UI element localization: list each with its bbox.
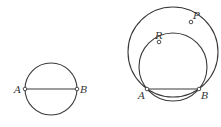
point-b <box>75 87 79 91</box>
label-r: R <box>154 30 163 41</box>
label-b: B <box>79 84 87 95</box>
inner-circle-abr <box>139 33 207 101</box>
label-b: B <box>200 90 208 101</box>
point-a <box>145 87 149 91</box>
point-a <box>23 87 27 91</box>
label-a: A <box>13 84 21 95</box>
figure-right: A B P R <box>128 7 218 101</box>
outer-circle-abp <box>128 7 218 97</box>
label-p: P <box>192 10 200 21</box>
figure-left: A B <box>13 63 87 115</box>
label-a: A <box>137 90 145 101</box>
diagram-canvas: A B A B P R <box>0 0 221 127</box>
